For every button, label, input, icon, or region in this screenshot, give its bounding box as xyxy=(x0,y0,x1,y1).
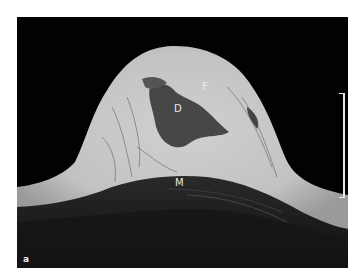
muscle-label: M xyxy=(175,178,184,188)
scale-bracket xyxy=(339,93,345,198)
mri-image xyxy=(17,17,348,268)
fat-label: F xyxy=(202,82,208,92)
mri-breast-figure: F D M a xyxy=(17,17,348,268)
panel-letter: a xyxy=(23,255,29,264)
ducts-label: D xyxy=(174,104,182,114)
